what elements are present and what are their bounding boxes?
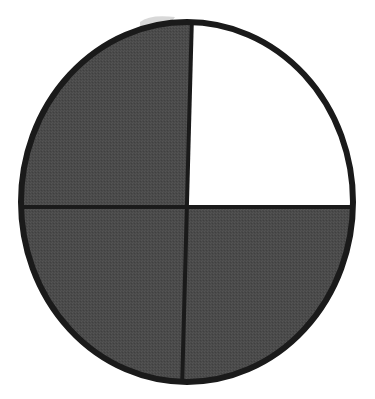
quarter-top-left-shaded: [0, 0, 192, 207]
fraction-diagram: 3/4: [0, 0, 375, 399]
fraction-circle-svg: [0, 0, 375, 399]
quarter-top-right-unshaded: [186, 0, 375, 207]
quarter-bottom-left-shaded: [0, 207, 186, 399]
quarter-bottom-right-shaded: [182, 207, 375, 399]
